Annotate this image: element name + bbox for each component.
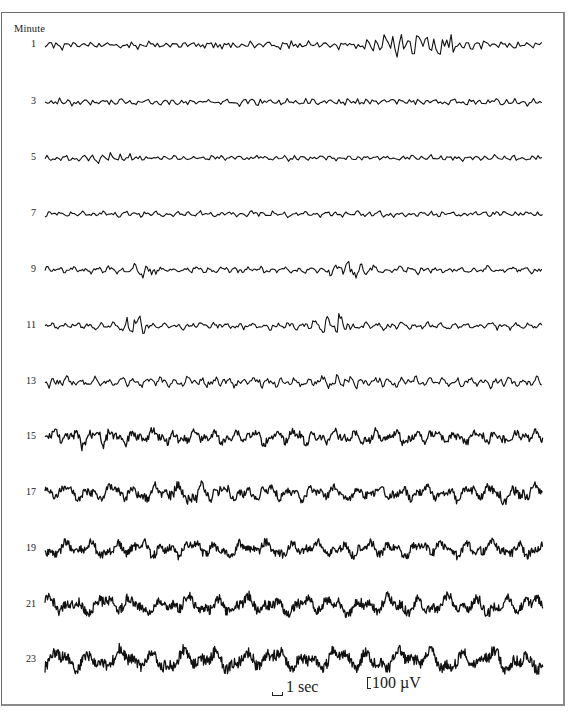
time-bar-icon <box>272 692 283 696</box>
time-scale-label: 1 sec <box>286 678 318 696</box>
eeg-trace-minute-23 <box>45 644 543 675</box>
eeg-trace-minute-1 <box>45 35 542 58</box>
eeg-trace-minute-19 <box>45 538 543 560</box>
voltage-bracket-icon <box>367 677 371 689</box>
voltage-scale-label: 100 µV <box>372 674 421 692</box>
eeg-trace-minute-5 <box>45 153 542 164</box>
eeg-trace-minute-13 <box>45 375 542 389</box>
time-scale-bar: 1 sec <box>272 678 318 696</box>
eeg-trace-minute-17 <box>45 481 542 505</box>
eeg-trace-minute-11 <box>45 314 542 334</box>
eeg-trace-minute-7 <box>45 211 543 218</box>
voltage-scale-bar: 100 µV <box>367 674 421 692</box>
eeg-traces <box>0 0 571 715</box>
eeg-trace-minute-9 <box>45 262 542 279</box>
eeg-trace-minute-3 <box>45 98 542 106</box>
eeg-trace-minute-21 <box>45 591 543 617</box>
eeg-trace-minute-15 <box>45 428 543 451</box>
